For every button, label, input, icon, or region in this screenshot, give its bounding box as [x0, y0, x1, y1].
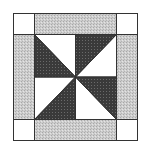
corner-square-top-left	[14, 14, 35, 35]
corner-square-bottom-right	[117, 120, 138, 141]
corner-square-top-right	[117, 14, 138, 35]
border-strip-right	[117, 35, 138, 120]
border-strip-bottom	[35, 120, 117, 141]
corner-square-bottom-left	[14, 120, 35, 141]
border-strip-left	[14, 35, 35, 120]
quilt-block-diagram	[0, 0, 146, 148]
border-strip-top	[35, 14, 117, 35]
